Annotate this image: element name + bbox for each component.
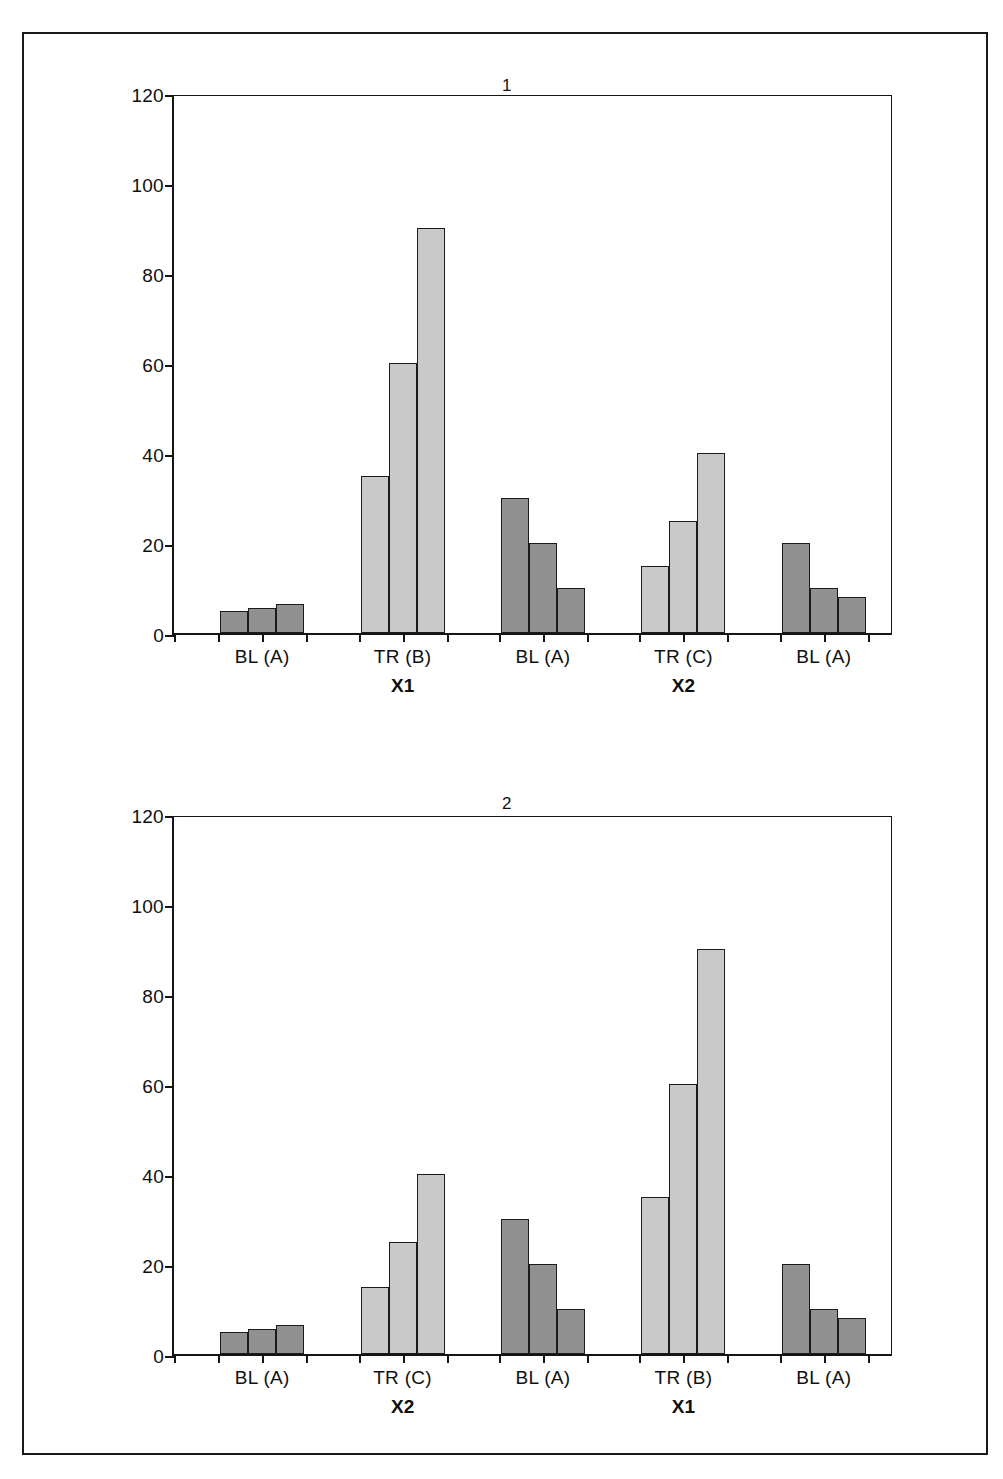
bar (669, 1084, 697, 1354)
y-tick-label: 80 (94, 986, 174, 1008)
bar (697, 453, 725, 633)
y-tick-mark (165, 816, 174, 818)
bar (641, 1197, 669, 1355)
x-group-label: BL (A) (235, 646, 290, 668)
x-tick-mark (683, 1354, 685, 1363)
y-tick-mark (165, 95, 174, 97)
y-tick-mark (165, 1356, 174, 1358)
y-tick-mark (165, 455, 174, 457)
bar (529, 1264, 557, 1354)
panel-2-bars (174, 817, 891, 1354)
bar (501, 1219, 529, 1354)
x-tick-mark (403, 633, 405, 642)
x-group-sublabel: X2 (672, 675, 695, 697)
y-tick-mark (165, 1176, 174, 1178)
x-tick-mark (174, 1354, 176, 1363)
bar (361, 476, 389, 634)
y-tick-label: 60 (94, 1076, 174, 1098)
x-tick-mark (868, 1354, 870, 1363)
x-tick-mark (403, 1354, 405, 1363)
x-tick-mark (639, 633, 641, 642)
bar (220, 611, 248, 634)
y-tick-label: 120 (94, 806, 174, 828)
bar (782, 1264, 810, 1354)
bar (501, 498, 529, 633)
bar (669, 521, 697, 634)
bar (389, 363, 417, 633)
y-tick-label: 60 (94, 355, 174, 377)
x-tick-mark (359, 1354, 361, 1363)
x-group-label: BL (A) (516, 1367, 571, 1389)
y-tick-mark (165, 635, 174, 637)
y-tick-mark (165, 365, 174, 367)
bar (417, 1174, 445, 1354)
bar (529, 543, 557, 633)
bar (810, 588, 838, 633)
bar (557, 588, 585, 633)
x-tick-mark (587, 1354, 589, 1363)
x-tick-mark (780, 633, 782, 642)
bar (697, 949, 725, 1354)
x-tick-mark (218, 1354, 220, 1363)
x-tick-mark (639, 1354, 641, 1363)
chart-panel-2: 2 020406080100120BL (A)TR (C)X2BL (A)TR … (24, 774, 990, 1454)
panel-2-plot-area: 020406080100120BL (A)TR (C)X2BL (A)TR (B… (172, 816, 892, 1356)
x-tick-mark (447, 1354, 449, 1363)
bar (276, 1325, 304, 1354)
x-tick-mark (262, 1354, 264, 1363)
x-group-label: BL (A) (235, 1367, 290, 1389)
x-tick-mark (824, 633, 826, 642)
bar (557, 1309, 585, 1354)
bar (248, 608, 276, 633)
x-tick-mark (499, 1354, 501, 1363)
panel-1-bars (174, 96, 891, 633)
y-tick-mark (165, 275, 174, 277)
y-tick-label: 20 (94, 1256, 174, 1278)
x-tick-mark (218, 633, 220, 642)
x-tick-mark (447, 633, 449, 642)
bar (838, 597, 866, 633)
x-tick-mark (262, 633, 264, 642)
bar (361, 1287, 389, 1355)
bar (641, 566, 669, 634)
y-tick-mark (165, 906, 174, 908)
x-group-label: BL (A) (516, 646, 571, 668)
x-tick-mark (499, 633, 501, 642)
panel-1-plot-area: 020406080100120BL (A)TR (B)X1BL (A)TR (C… (172, 95, 892, 635)
x-tick-mark (543, 633, 545, 642)
y-tick-label: 80 (94, 265, 174, 287)
x-tick-mark (359, 633, 361, 642)
bar (248, 1329, 276, 1354)
x-tick-mark (174, 633, 176, 642)
x-tick-mark (727, 1354, 729, 1363)
bar (838, 1318, 866, 1354)
bar (782, 543, 810, 633)
y-tick-label: 100 (94, 175, 174, 197)
x-tick-mark (727, 633, 729, 642)
x-group-sublabel: X1 (391, 675, 414, 697)
x-group-label: TR (B) (374, 646, 432, 668)
y-tick-label: 20 (94, 535, 174, 557)
x-tick-mark (543, 1354, 545, 1363)
x-group-label: TR (B) (655, 1367, 713, 1389)
x-group-label: BL (A) (796, 1367, 851, 1389)
bar (220, 1332, 248, 1355)
bar (810, 1309, 838, 1354)
bar (417, 228, 445, 633)
x-tick-mark (306, 633, 308, 642)
y-tick-mark (165, 185, 174, 187)
x-tick-mark (824, 1354, 826, 1363)
x-group-label: BL (A) (796, 646, 851, 668)
figure-border: 1 020406080100120BL (A)TR (B)X1BL (A)TR … (22, 32, 988, 1455)
x-tick-mark (868, 633, 870, 642)
y-tick-label: 40 (94, 445, 174, 467)
y-tick-label: 0 (94, 625, 174, 647)
x-group-sublabel: X1 (672, 1396, 695, 1418)
y-tick-mark (165, 996, 174, 998)
y-tick-mark (165, 545, 174, 547)
chart-panel-1: 1 020406080100120BL (A)TR (B)X1BL (A)TR … (24, 34, 990, 734)
y-tick-label: 100 (94, 896, 174, 918)
bar (276, 604, 304, 633)
x-tick-mark (587, 633, 589, 642)
x-group-label: TR (C) (373, 1367, 432, 1389)
